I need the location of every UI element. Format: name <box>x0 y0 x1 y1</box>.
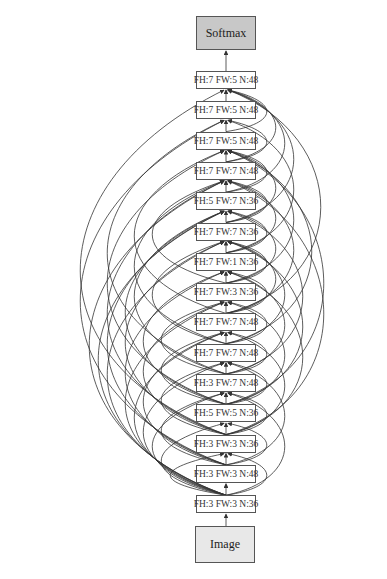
layer-node: FH:7 FW:7 N:36 <box>196 223 256 241</box>
layer-node: FH:3 FW:3 N:36 <box>196 495 256 513</box>
layer-node: FH:7 FW:1 N:36 <box>196 253 256 271</box>
layer-node: FH:3 FW:7 N:48 <box>196 374 256 392</box>
layer-node: FH:7 FW:5 N:48 <box>196 71 256 89</box>
layer-node: FH:5 FW:5 N:36 <box>196 404 256 422</box>
layer-node: FH:7 FW:5 N:48 <box>196 132 256 150</box>
layer-node: FH:7 FW:7 N:48 <box>196 162 256 180</box>
softmax-node: Softmax <box>196 16 256 50</box>
image-input-node: Image <box>195 526 255 563</box>
layer-node: FH:7 FW:7 N:48 <box>196 344 256 362</box>
architecture-diagram: Softmax FH:7 FW:5 N:48FH:7 FW:5 N:48FH:7… <box>0 0 387 579</box>
layer-node: FH:3 FW:3 N:48 <box>196 465 256 483</box>
layer-node: FH:7 FW:5 N:48 <box>196 101 256 119</box>
layer-node: FH:3 FW:3 N:36 <box>196 435 256 453</box>
layer-node: FH:5 FW:7 N:36 <box>196 192 256 210</box>
layer-node: FH:7 FW:3 N:36 <box>196 283 256 301</box>
layer-node: FH:7 FW:7 N:48 <box>196 313 256 331</box>
